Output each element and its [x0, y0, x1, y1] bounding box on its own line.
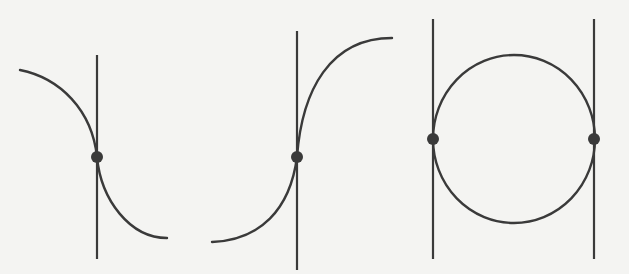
panel-circle-tangents — [427, 19, 600, 259]
inflection-point — [91, 151, 103, 163]
right-tangent-point — [588, 133, 600, 145]
left-tangent-point — [427, 133, 439, 145]
tangent-lines-diagram — [0, 0, 629, 274]
diagram-svg — [0, 0, 629, 274]
panel-decreasing-inflection — [20, 55, 167, 259]
circle — [433, 55, 595, 223]
inflection-point — [291, 151, 303, 163]
increasing-curve — [212, 38, 392, 242]
panel-increasing-inflection — [212, 31, 392, 270]
